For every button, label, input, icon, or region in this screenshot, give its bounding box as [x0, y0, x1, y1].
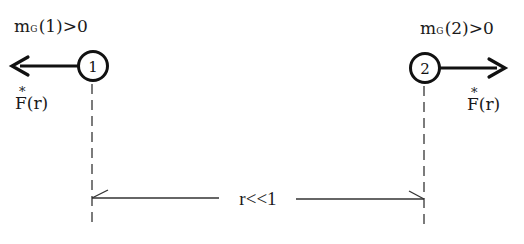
mass-subscript: G: [30, 24, 38, 34]
force-label-2: * F(r): [467, 85, 500, 114]
particle-1-mass-label: mG(1)>0: [14, 16, 88, 36]
separation-label: r<<1: [239, 188, 276, 209]
mass-argument: (2): [445, 18, 469, 38]
svg-text:F(r): F(r): [15, 93, 48, 113]
mass-value: 0: [483, 18, 494, 38]
mass-argument: (1): [39, 16, 63, 36]
mass-value: 0: [77, 16, 88, 36]
force-symbol: F: [15, 93, 27, 113]
force-arrow-left: [12, 57, 78, 75]
particle-2-node: 2: [411, 54, 440, 83]
dimension-arrow-right-icon: [409, 191, 424, 199]
mass-subscript: G: [436, 26, 444, 36]
mass-relation: >: [63, 16, 77, 36]
particle-1-number: 1: [88, 58, 98, 76]
force-argument: (r): [479, 94, 500, 114]
force-symbol: F: [467, 94, 479, 114]
particle-1-node: 1: [79, 52, 108, 81]
particle-2-number: 2: [420, 60, 430, 78]
separation-dimension: r<<1: [92, 188, 424, 209]
svg-text:mG(2)>0: mG(2)>0: [420, 18, 494, 38]
force-arrow-right: [440, 59, 505, 77]
svg-text:F(r): F(r): [467, 94, 500, 114]
mass-relation: >: [469, 18, 483, 38]
gravity-diagram: mG(1)>0 mG(2)>0 1 2 * F(r) * F(r): [0, 0, 524, 244]
particle-2-mass-label: mG(2)>0: [420, 18, 494, 38]
mass-symbol: m: [420, 18, 436, 38]
force-argument: (r): [27, 93, 48, 113]
force-label-1: * F(r): [15, 84, 48, 113]
svg-text:mG(1)>0: mG(1)>0: [14, 16, 88, 36]
mass-symbol: m: [14, 16, 30, 36]
dimension-arrow-left-icon: [92, 190, 108, 198]
